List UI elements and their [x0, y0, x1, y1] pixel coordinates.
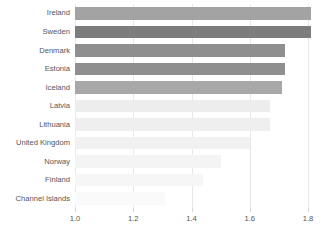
bar-lithuania — [75, 118, 270, 131]
category-label: Iceland — [46, 84, 71, 92]
bar-latvia — [75, 100, 270, 113]
category-label: Finland — [45, 176, 70, 184]
bar-row — [75, 152, 308, 171]
x-tick-mark — [250, 208, 251, 212]
category-label: Ireland — [47, 9, 70, 17]
category-label: Latvia — [50, 102, 70, 110]
x-tick-label-2: 1.4 — [186, 214, 197, 223]
x-tick-label-4: 1.8 — [303, 214, 314, 223]
bar-row — [75, 115, 308, 134]
y-axis-label-8: Norway — [0, 152, 70, 171]
y-axis-label-10: Channel Islands — [0, 189, 70, 208]
bar-row — [75, 60, 308, 79]
x-tick-mark — [133, 208, 134, 212]
bar-sweden — [75, 26, 311, 39]
bar-row — [75, 4, 308, 23]
category-label: United Kingdom — [16, 139, 70, 147]
y-axis-label-9: Finland — [0, 171, 70, 190]
x-tick-mark — [192, 208, 193, 212]
bar-ireland — [75, 7, 311, 20]
bar-norway — [75, 155, 221, 168]
x-tick-mark — [308, 208, 309, 212]
bar-row — [75, 97, 308, 116]
category-label: Norway — [44, 158, 70, 166]
bar-united-kingdom — [75, 137, 250, 150]
x-tick-label-3: 1.6 — [244, 214, 255, 223]
bar-row — [75, 134, 308, 153]
category-label: Sweden — [43, 28, 70, 36]
y-axis-label-1: Sweden — [0, 23, 70, 42]
x-tick-mark — [75, 208, 76, 212]
bar-denmark — [75, 44, 285, 57]
bar-row — [75, 171, 308, 190]
bar-iceland — [75, 81, 282, 94]
bar-estonia — [75, 63, 285, 76]
bar-finland — [75, 174, 203, 187]
y-axis-label-7: United Kingdom — [0, 134, 70, 153]
x-tick-label-1: 1.2 — [128, 214, 139, 223]
y-axis-label-2: Denmark — [0, 41, 70, 60]
bar-row — [75, 41, 308, 60]
category-label: Denmark — [39, 47, 70, 55]
x-tick-label-0: 1.0 — [70, 214, 81, 223]
bar-row — [75, 189, 308, 208]
bar-row — [75, 78, 308, 97]
bar-chart: Ireland Sweden Denmark Estonia Iceland L… — [0, 0, 321, 239]
category-label: Channel Islands — [16, 195, 70, 203]
y-axis-label-4: Iceland — [0, 78, 70, 97]
y-axis-label-6: Lithuania — [0, 115, 70, 134]
category-label: Estonia — [45, 65, 70, 73]
plot-area — [75, 4, 308, 208]
y-axis-label-0: Ireland — [0, 4, 70, 23]
bar-row — [75, 23, 308, 42]
category-label: Lithuania — [39, 121, 70, 129]
bar-channel-islands — [75, 192, 165, 205]
x-axis: 1.0 1.2 1.4 1.6 1.8 — [75, 208, 308, 238]
y-axis-category-labels: Ireland Sweden Denmark Estonia Iceland L… — [0, 4, 70, 208]
y-axis-label-3: Estonia — [0, 60, 70, 79]
y-axis-label-5: Latvia — [0, 97, 70, 116]
